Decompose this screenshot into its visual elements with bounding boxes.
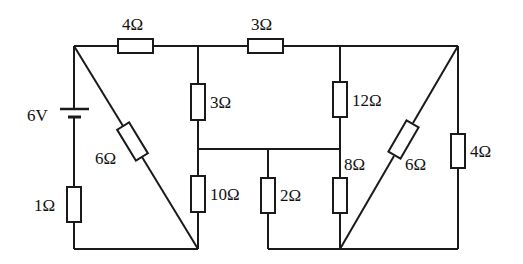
resistor-series-source — [67, 187, 81, 222]
resistor-center — [261, 178, 275, 213]
resistor-right-edge — [451, 134, 465, 168]
label-source-voltage: 6V — [27, 106, 49, 125]
label-r-top-right: 3Ω — [251, 15, 272, 34]
resistor-top-left — [118, 39, 153, 53]
resistor-mid-right-upper — [333, 82, 347, 117]
label-r-series-source: 1Ω — [34, 196, 55, 215]
label-r-mid-right-upper: 12Ω — [352, 91, 382, 110]
resistor-diag-right — [388, 120, 418, 158]
label-r-top-left: 4Ω — [122, 15, 143, 34]
label-r-mid-left-lower: 10Ω — [210, 185, 240, 204]
resistor-mid-left-lower — [191, 176, 205, 212]
label-r-mid-right-lower: 8Ω — [344, 155, 365, 174]
resistor-mid-left-upper — [191, 84, 205, 120]
label-r-diag-left: 6Ω — [95, 149, 116, 168]
circuit-diagram: 4Ω 3Ω 3Ω 10Ω 2Ω 12Ω 8Ω 6Ω 6Ω 1Ω 4Ω 6V — [0, 0, 523, 264]
resistor-diag-left — [117, 122, 148, 160]
battery-symbol — [60, 109, 89, 117]
label-r-center: 2Ω — [280, 186, 301, 205]
resistor-mid-right-lower — [333, 178, 347, 213]
resistor-top-right — [248, 39, 283, 53]
label-r-right-edge: 4Ω — [470, 142, 491, 161]
label-r-mid-left-upper: 3Ω — [210, 93, 231, 112]
label-r-diag-right: 6Ω — [405, 155, 426, 174]
